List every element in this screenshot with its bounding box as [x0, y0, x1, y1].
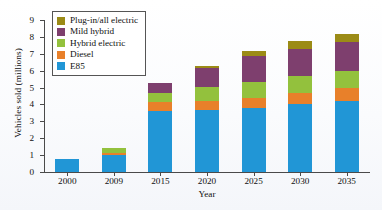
y-axis-line: [44, 20, 45, 172]
x-tick-label: 2015: [151, 176, 169, 186]
y-tick: 6: [40, 71, 44, 72]
bar-segment: [55, 159, 79, 173]
bar-segment: [335, 42, 359, 71]
bar-segment: [195, 87, 219, 101]
y-tick-label: 8: [29, 32, 34, 42]
legend-item-label: Mild hybrid: [70, 27, 114, 36]
bar-segment: [242, 108, 266, 172]
y-tick-label: 9: [29, 15, 34, 25]
legend-item-label: Diesel: [70, 50, 93, 59]
bar-segment: [335, 88, 359, 102]
bar-segment: [288, 41, 312, 49]
bar-segment: [242, 98, 266, 108]
y-tick: 3: [40, 121, 44, 122]
y-tick: 9: [40, 20, 44, 21]
y-axis-title: Vehicles sold (millions): [13, 18, 23, 168]
legend-item-label: Plug-in/all electric: [70, 16, 138, 25]
y-tick: 4: [40, 104, 44, 105]
legend-swatch-icon: [57, 39, 65, 47]
y-tick: 8: [40, 37, 44, 38]
bar-segment: [102, 155, 126, 172]
x-axis-title: Year: [44, 189, 370, 199]
y-tick-label: 7: [29, 49, 34, 59]
legend-item-label: Hybrid electric: [70, 39, 125, 48]
stacked-bar-chart: Vehicles sold (millions) 0123456789 2000…: [0, 0, 382, 210]
bar-segment: [148, 111, 172, 172]
bar-segment: [335, 101, 359, 172]
legend-swatch-icon: [57, 28, 65, 36]
bar-segment: [195, 66, 219, 69]
y-tick: 1: [40, 155, 44, 156]
bar-segment: [195, 68, 219, 87]
y-tick-label: 6: [29, 66, 34, 76]
x-tick-label: 2009: [105, 176, 123, 186]
y-tick-label: 2: [29, 133, 34, 143]
bar-segment: [148, 93, 172, 102]
legend-swatch-icon: [57, 17, 65, 25]
bar-segment: [242, 51, 266, 56]
y-tick: 2: [40, 138, 44, 139]
bar-segment: [335, 71, 359, 88]
bar-stack: [335, 20, 359, 172]
bar-segment: [242, 82, 266, 98]
bar-stack: [288, 20, 312, 172]
bar-segment: [242, 56, 266, 81]
bar-segment: [148, 83, 172, 92]
bar-segment: [288, 76, 312, 93]
x-tick-label: 2000: [58, 176, 76, 186]
y-tick: 5: [40, 88, 44, 89]
y-tick-label: 4: [29, 99, 34, 109]
bar-stack: [242, 20, 266, 172]
y-tick: 0: [40, 172, 44, 173]
x-tick-label: 2035: [338, 176, 356, 186]
bar-segment: [288, 104, 312, 172]
y-tick: 7: [40, 54, 44, 55]
y-tick-label: 3: [29, 116, 34, 126]
bar-stack: [195, 20, 219, 172]
legend-swatch-icon: [57, 62, 65, 70]
y-tick-label: 1: [29, 150, 34, 160]
legend-item-label: E85: [70, 62, 85, 71]
chart-legend: Plug-in/all electricMild hybridHybrid el…: [52, 11, 146, 76]
legend-item: E85: [57, 61, 138, 72]
x-tick-label: 2020: [198, 176, 216, 186]
bar-segment: [102, 148, 126, 152]
legend-item: Plug-in/all electric: [57, 15, 138, 26]
legend-item: Hybrid electric: [57, 38, 138, 49]
legend-swatch-icon: [57, 51, 65, 59]
legend-item: Mild hybrid: [57, 26, 138, 37]
x-tick-label: 2030: [291, 176, 309, 186]
bar-segment: [288, 49, 312, 76]
bar-segment: [102, 153, 126, 156]
bar-segment: [335, 34, 359, 42]
x-tick-label: 2025: [244, 176, 262, 186]
bar-segment: [195, 110, 219, 172]
bar-segment: [148, 102, 172, 111]
y-tick-label: 0: [29, 167, 34, 177]
legend-item: Diesel: [57, 49, 138, 60]
bar-segment: [195, 101, 219, 109]
bar-segment: [288, 93, 312, 105]
bar-stack: [148, 20, 172, 172]
y-tick-label: 5: [29, 83, 34, 93]
